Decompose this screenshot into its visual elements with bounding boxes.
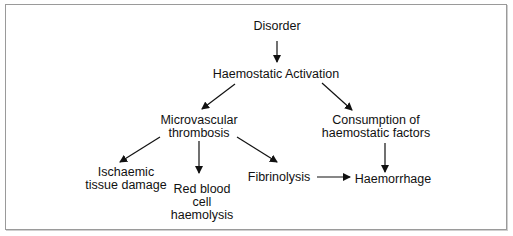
node-label: Haemorrhage [355, 172, 431, 186]
node-label: Haemostatic Activation [213, 67, 339, 81]
node-fibrinolysis: Fibrinolysis [248, 171, 311, 184]
node-consumption: Consumption of haemostatic factors [322, 114, 430, 140]
node-label-line: thrombosis [160, 127, 237, 140]
arrows [0, 0, 513, 236]
arrow-activation-micro [202, 84, 235, 109]
arrow-micro-ischaemic [120, 137, 160, 162]
node-label-line: tissue damage [85, 179, 166, 192]
node-haemostatic-activation: Haemostatic Activation [213, 68, 339, 81]
node-label: Fibrinolysis [248, 170, 311, 184]
node-haemorrhage: Haemorrhage [355, 173, 431, 186]
node-ischaemic-tissue-damage: Ischaemic tissue damage [85, 166, 166, 192]
node-label-line: haemolysis [171, 209, 234, 222]
node-label-line: haemostatic factors [322, 127, 430, 140]
arrow-micro-fibrinolysis [237, 137, 277, 162]
node-label: Disorder [253, 19, 300, 33]
arrow-activation-consumption [322, 83, 352, 110]
node-red-blood-cell-haemolysis: Red blood cell haemolysis [171, 183, 234, 222]
node-disorder: Disorder [253, 20, 300, 33]
node-microvascular-thrombosis: Microvascular thrombosis [160, 114, 237, 140]
